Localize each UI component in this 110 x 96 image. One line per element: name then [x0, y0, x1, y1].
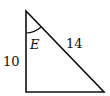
triangle-diagram: E 14 10 — [0, 0, 110, 96]
angle-arc — [26, 27, 41, 33]
angle-label: E — [29, 37, 40, 52]
vertical-leg-label: 10 — [3, 54, 20, 69]
hypotenuse-label: 14 — [66, 36, 83, 51]
